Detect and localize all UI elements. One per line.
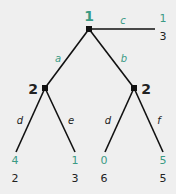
payoff-ae-p2: 3 — [72, 173, 79, 185]
right-player-label: 2 — [141, 82, 151, 97]
game-tree-edges — [0, 0, 176, 194]
root-node — [86, 26, 92, 32]
action-b-label: b — [121, 53, 127, 65]
payoff-ae-p1: 1 — [72, 155, 79, 167]
root-player-label: 1 — [84, 9, 94, 24]
payoff-c-p1: 1 — [160, 13, 167, 25]
left-player-label: 2 — [28, 82, 38, 97]
action-e-label: e — [68, 115, 74, 127]
payoff-bd-p1: 0 — [101, 155, 108, 167]
left-node — [42, 85, 48, 91]
edge-b — [89, 29, 134, 88]
action-c-label: c — [120, 15, 126, 27]
action-right-d-label: d — [105, 115, 111, 127]
action-a-label: a — [55, 53, 61, 65]
edge-a — [45, 29, 89, 88]
payoff-ad-p1: 4 — [12, 155, 19, 167]
payoff-bd-p2: 6 — [101, 173, 108, 185]
payoff-ad-p2: 2 — [12, 173, 19, 185]
payoff-bf-p2: 5 — [160, 173, 167, 185]
payoff-c-p2: 3 — [160, 31, 167, 43]
right-node — [131, 85, 137, 91]
action-left-d-label: d — [17, 115, 23, 127]
action-f-label: f — [157, 115, 161, 127]
payoff-bf-p1: 5 — [160, 155, 167, 167]
